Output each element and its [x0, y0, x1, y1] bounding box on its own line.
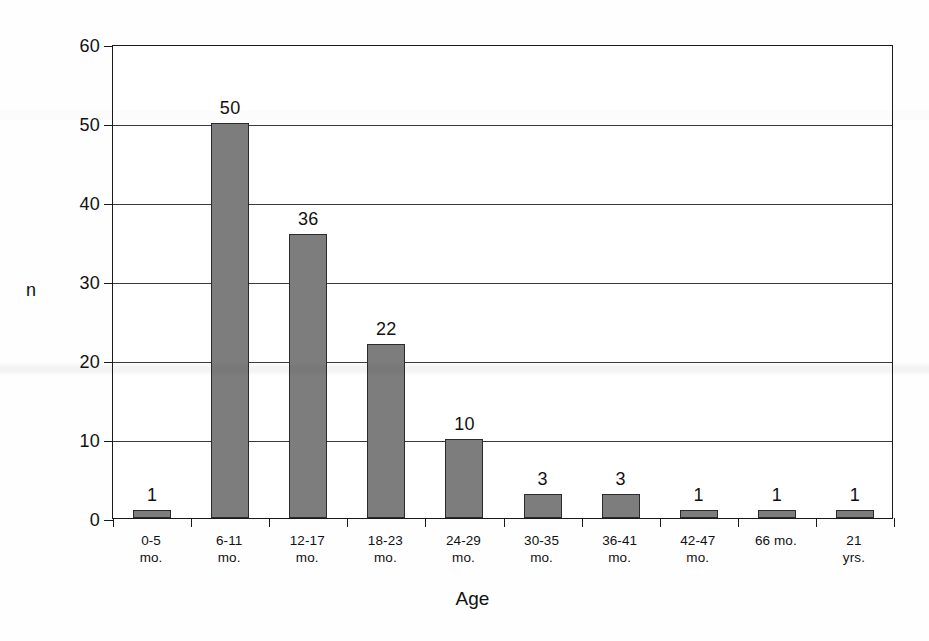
- bar-value-label: 3: [537, 469, 547, 490]
- bar-value-label: 3: [615, 469, 625, 490]
- x-axis-category-label-line: 24-29: [424, 532, 502, 549]
- x-axis-category-label: 12-17mo.: [268, 532, 346, 566]
- bar: 3: [524, 494, 562, 518]
- y-axis-title: n: [26, 280, 36, 301]
- x-axis-category-label-line: 18-23: [346, 532, 424, 549]
- y-axis-tick-label-10: 10: [79, 431, 100, 452]
- x-axis-category-label: 0-5mo.: [112, 532, 190, 566]
- x-axis-category-label-line: 12-17: [268, 532, 346, 549]
- x-axis-category-label-line: 21: [815, 532, 893, 549]
- y-axis-tick-label-30: 30: [79, 273, 100, 294]
- y-axis-tick-label-40: 40: [79, 194, 100, 215]
- bar-value-label: 50: [220, 98, 241, 119]
- x-axis-category-label-line: 36-41: [581, 532, 659, 549]
- x-axis-tick-0: [113, 518, 114, 527]
- y-axis-tick-10: [104, 441, 113, 442]
- x-axis-category-label-line: yrs.: [815, 549, 893, 566]
- bar-value-label: 36: [298, 209, 319, 230]
- x-axis-tick-7: [660, 518, 661, 527]
- y-axis-tick-60: [104, 46, 113, 47]
- bar: 36: [289, 234, 327, 518]
- bar: 22: [367, 344, 405, 518]
- bar: 10: [445, 439, 483, 518]
- x-axis-category-label-line: mo.: [503, 549, 581, 566]
- bar: 1: [133, 510, 171, 518]
- y-axis-tick-50: [104, 125, 113, 126]
- x-axis-category-label-line: mo.: [581, 549, 659, 566]
- y-axis-tick-20: [104, 362, 113, 363]
- x-axis-category-label-line: 30-35: [503, 532, 581, 549]
- x-axis-category-label: 18-23mo.: [346, 532, 424, 566]
- x-axis-category-label-line: mo.: [424, 549, 502, 566]
- bar-value-label: 1: [850, 485, 860, 506]
- y-axis-tick-40: [104, 204, 113, 205]
- plot-area: 0102030405060 15036221033111: [112, 45, 893, 519]
- y-axis-tick-label-0: 0: [90, 510, 100, 531]
- y-axis-tick-label-20: 20: [79, 352, 100, 373]
- x-axis-tick-4: [425, 518, 426, 527]
- x-axis-category-label-line: 42-47: [659, 532, 737, 549]
- bar-value-label: 22: [376, 319, 397, 340]
- y-axis-tick-label-60: 60: [79, 36, 100, 57]
- x-axis-tick-10: [894, 518, 895, 527]
- bar: 1: [758, 510, 796, 518]
- x-axis-tick-6: [582, 518, 583, 527]
- x-axis-tick-9: [816, 518, 817, 527]
- x-axis-title: Age: [0, 588, 929, 610]
- x-axis-category-label-line: mo.: [112, 549, 190, 566]
- bar-chart-figure: n 0102030405060 15036221033111 0-5mo.6-1…: [0, 0, 929, 641]
- y-axis-tick-label-50: 50: [79, 115, 100, 136]
- bar-value-label: 1: [694, 485, 704, 506]
- x-axis-category-label: 24-29mo.: [424, 532, 502, 566]
- bar: 1: [836, 510, 874, 518]
- x-axis-category-label-line: mo.: [659, 549, 737, 566]
- x-axis-category-label: 21yrs.: [815, 532, 893, 566]
- x-axis-category-label: 30-35mo.: [503, 532, 581, 566]
- y-axis-tick-0: [104, 520, 113, 521]
- x-axis-tick-3: [347, 518, 348, 527]
- bar: 1: [680, 510, 718, 518]
- bar-value-label: 1: [147, 485, 157, 506]
- x-axis-category-label: 42-47mo.: [659, 532, 737, 566]
- x-axis-tick-5: [504, 518, 505, 527]
- x-axis-category-label: 36-41mo.: [581, 532, 659, 566]
- x-axis-category-label-line: mo.: [268, 549, 346, 566]
- bar: 50: [211, 123, 249, 518]
- x-axis-category-label: 66 mo.: [737, 532, 815, 549]
- x-axis-category-label-line: 0-5: [112, 532, 190, 549]
- x-axis-category-label-line: 66 mo.: [737, 532, 815, 549]
- bar-value-label: 1: [772, 485, 782, 506]
- x-axis-category-label-line: mo.: [346, 549, 424, 566]
- x-axis-tick-2: [269, 518, 270, 527]
- x-axis-tick-8: [738, 518, 739, 527]
- y-axis-tick-30: [104, 283, 113, 284]
- bar-value-label: 10: [454, 414, 475, 435]
- x-axis-category-label-line: 6-11: [190, 532, 268, 549]
- x-axis-category-label: 6-11mo.: [190, 532, 268, 566]
- x-axis-category-label-line: mo.: [190, 549, 268, 566]
- x-axis-title-text: Age: [456, 588, 490, 610]
- bar: 3: [602, 494, 640, 518]
- x-axis-tick-1: [191, 518, 192, 527]
